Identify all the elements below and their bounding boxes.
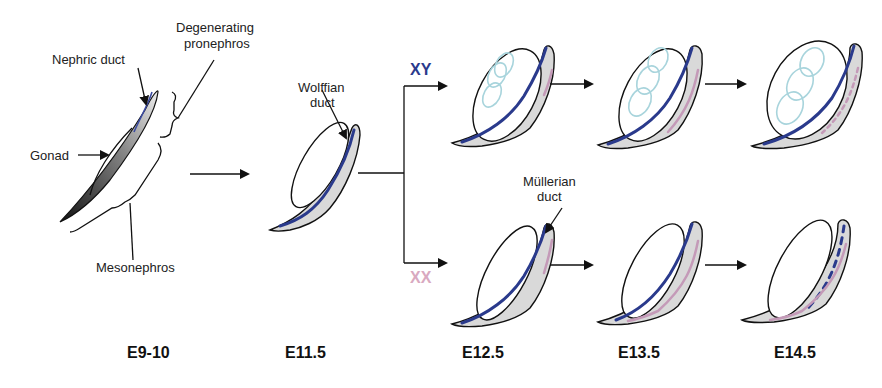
xy-e14-5-illustration <box>751 27 863 153</box>
stage-label-e11-5: E11.5 <box>285 344 326 361</box>
wolffian-duct-label-2: duct <box>310 95 335 110</box>
mullerian-duct-label-2: duct <box>537 189 562 204</box>
stage-e11-5-illustration <box>270 90 360 231</box>
stage-label-e12-5: E12.5 <box>462 344 504 361</box>
degenerating-pronephros-label: Degenerating <box>176 20 254 35</box>
degenerating-pronephros-label-2: pronephros <box>184 36 250 51</box>
gonad-development-diagram: Nephric duct Degenerating pronephros Gon… <box>0 0 882 388</box>
stage-label-e13-5: E13.5 <box>618 344 660 361</box>
xy-label: XY <box>410 61 432 78</box>
mesonephros-label: Mesonephros <box>96 260 175 275</box>
wolffian-duct-label: Wolffian <box>298 80 345 95</box>
xx-e12-5-illustration <box>452 218 554 329</box>
xx-e13-5-illustration <box>598 215 702 327</box>
gonad-label: Gonad <box>30 148 69 163</box>
xx-e14-5-illustration <box>742 211 850 327</box>
stage-label-e14-5: E14.5 <box>774 344 816 361</box>
mullerian-duct-label: Müllerian <box>523 174 576 189</box>
xy-e13-5-illustration <box>598 38 702 153</box>
xx-label: XX <box>410 269 432 286</box>
stage-label-e9-10: E9-10 <box>127 344 170 361</box>
xy-e12-5-illustration <box>452 38 555 153</box>
stage-e9-10-illustration <box>60 60 214 260</box>
nephric-duct-label: Nephric duct <box>52 52 125 67</box>
